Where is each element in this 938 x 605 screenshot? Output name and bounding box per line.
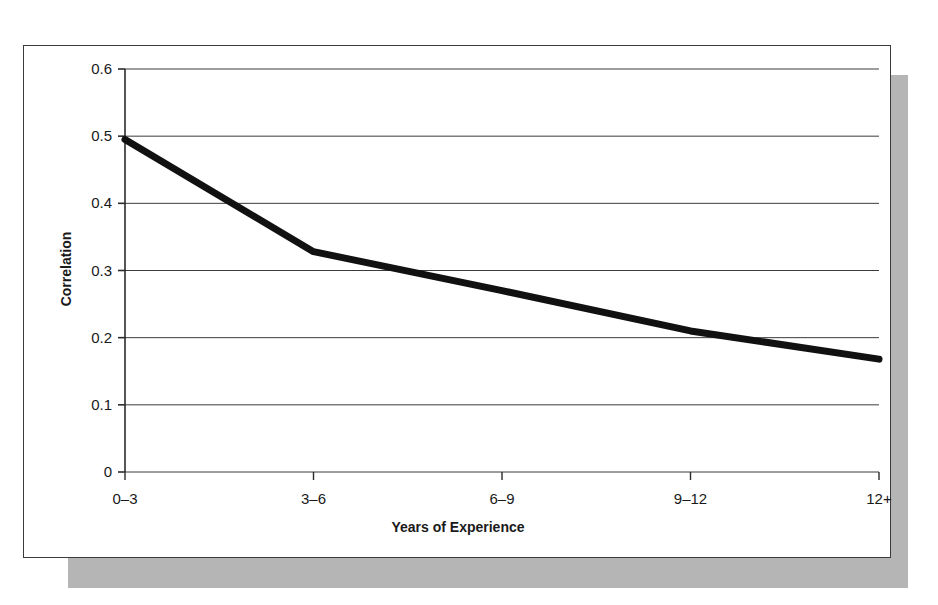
x-axis-ticks	[125, 472, 879, 480]
plot-area: 00.10.20.30.40.50.6 0–33–66–99–1212+ Cor…	[24, 46, 892, 559]
x-tick-label: 9–12	[646, 491, 736, 506]
x-axis-title: Years of Experience	[24, 519, 892, 535]
x-tick-label: 3–6	[269, 491, 359, 506]
x-tick-label: 12+	[834, 491, 924, 506]
y-tick-label: 0	[66, 464, 112, 479]
y-axis-title: Correlation	[58, 199, 74, 339]
y-tick-label: 0.6	[66, 61, 112, 76]
y-tick-label: 0.5	[66, 128, 112, 143]
gridlines	[125, 69, 879, 472]
series-polyline	[125, 140, 879, 360]
x-tick-label: 6–9	[457, 491, 547, 506]
chart-figure: 00.10.20.30.40.50.6 0–33–66–99–1212+ Cor…	[0, 0, 938, 605]
chart-canvas	[24, 46, 892, 559]
chart-card: 00.10.20.30.40.50.6 0–33–66–99–1212+ Cor…	[23, 45, 891, 558]
data-series-line	[125, 140, 879, 360]
y-tick-label: 0.1	[66, 397, 112, 412]
y-axis-line	[118, 69, 125, 472]
x-tick-label: 0–3	[80, 491, 170, 506]
